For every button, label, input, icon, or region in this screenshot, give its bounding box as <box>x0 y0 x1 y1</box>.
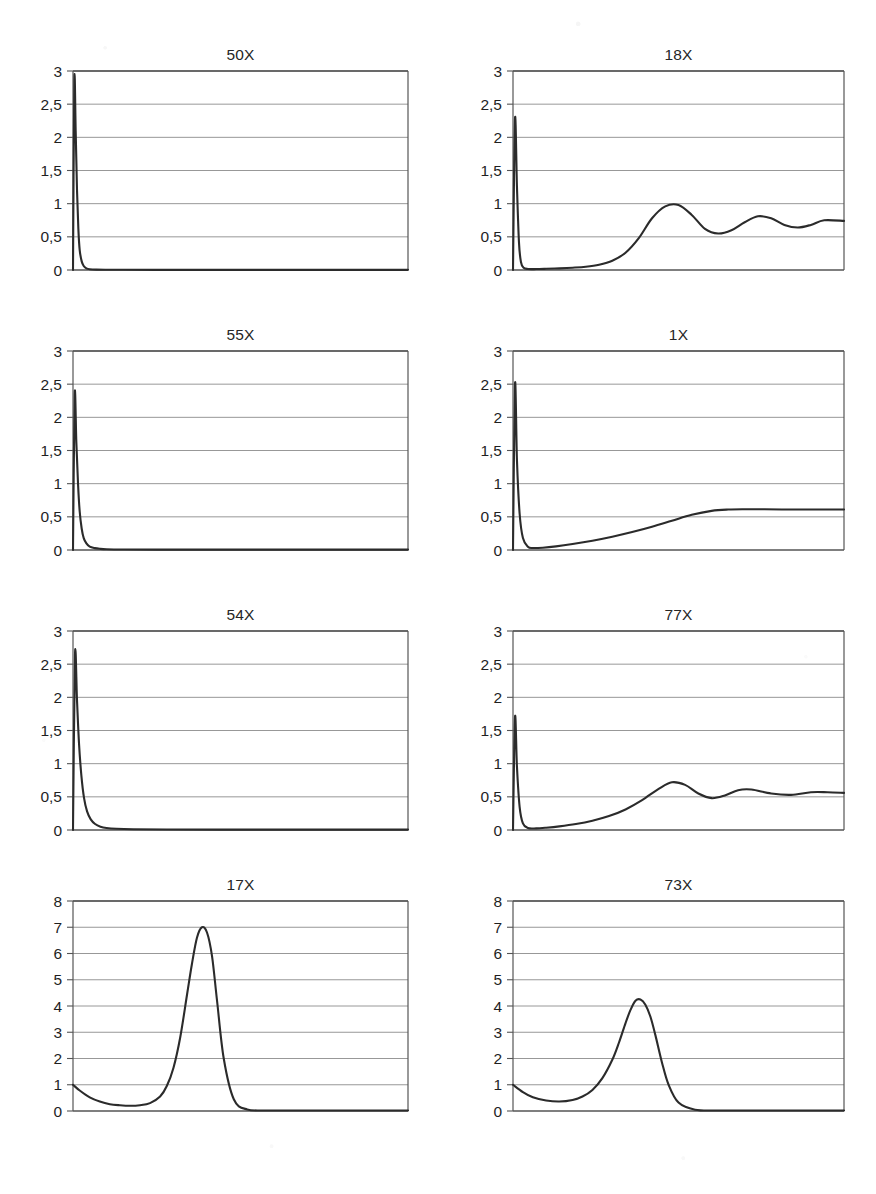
chart-title: 1X <box>513 326 844 344</box>
y-axis-tick-label: 2 <box>53 1050 62 1067</box>
y-axis-tick-label: 7 <box>53 919 62 936</box>
y-axis-tick-label: 3 <box>53 1024 62 1041</box>
y-axis-tick-label: 0,5 <box>480 788 502 805</box>
y-axis-tick-label: 0 <box>53 822 62 839</box>
plot-area: 00,511,522,53 <box>440 67 876 280</box>
y-axis-tick-label: 0 <box>493 542 502 559</box>
data-series-line <box>73 74 408 270</box>
y-axis-tick-label: 6 <box>53 945 62 962</box>
plot-area: 00,511,522,53 <box>0 67 440 280</box>
y-axis-tick-label: 3 <box>493 63 502 80</box>
y-axis-tick-label: 4 <box>493 998 502 1015</box>
y-axis-tick-label: 5 <box>493 971 502 988</box>
plot-area: 012345678 <box>0 897 440 1121</box>
y-axis-tick-label: 0,5 <box>40 788 62 805</box>
y-axis-tick-label: 1,5 <box>480 722 502 739</box>
chart-panel-50x: 50X00,511,522,53 <box>0 46 440 322</box>
y-axis-tick-label: 0 <box>53 1103 62 1120</box>
chart-title: 55X <box>73 326 408 344</box>
data-series-line <box>513 382 844 550</box>
y-axis-tick-label: 8 <box>53 893 62 910</box>
plot-area: 012345678 <box>440 897 876 1121</box>
y-axis-tick-label: 1 <box>493 195 502 212</box>
chart-title: 73X <box>513 876 844 894</box>
y-axis-tick-label: 1 <box>53 1076 62 1093</box>
y-axis-tick-label: 2,5 <box>40 376 62 393</box>
y-axis-tick-label: 1 <box>53 755 62 772</box>
y-axis-tick-label: 7 <box>493 919 502 936</box>
chart-title: 50X <box>73 46 408 64</box>
data-series-line <box>73 390 408 550</box>
y-axis-tick-label: 3 <box>493 1024 502 1041</box>
chart-title: 54X <box>73 606 408 624</box>
y-axis-tick-label: 3 <box>53 623 62 640</box>
y-axis-tick-label: 4 <box>53 998 62 1015</box>
chart-panel-18x: 18X00,511,522,53 <box>440 46 876 322</box>
y-axis-tick-label: 8 <box>493 893 502 910</box>
data-series-line <box>513 716 844 830</box>
chart-title: 18X <box>513 46 844 64</box>
data-series-line <box>73 649 408 830</box>
y-axis-tick-label: 1,5 <box>40 442 62 459</box>
y-axis-tick-label: 0 <box>493 822 502 839</box>
y-axis-tick-label: 0 <box>493 1103 502 1120</box>
y-axis-tick-label: 1,5 <box>480 162 502 179</box>
y-axis-tick-label: 2,5 <box>480 96 502 113</box>
y-axis-tick-label: 0,5 <box>480 508 502 525</box>
y-axis-tick-label: 2 <box>493 689 502 706</box>
y-axis-tick-label: 2 <box>53 689 62 706</box>
y-axis-tick-label: 2 <box>493 129 502 146</box>
y-axis-tick-label: 6 <box>493 945 502 962</box>
y-axis-tick-label: 1,5 <box>40 722 62 739</box>
plot-area: 00,511,522,53 <box>0 627 440 840</box>
y-axis-tick-label: 2 <box>53 129 62 146</box>
y-axis-tick-label: 1 <box>493 755 502 772</box>
y-axis-tick-label: 2 <box>53 409 62 426</box>
y-axis-tick-label: 2,5 <box>480 376 502 393</box>
plot-area: 00,511,522,53 <box>440 347 876 560</box>
data-series-line <box>73 927 408 1111</box>
plot-area: 00,511,522,53 <box>440 627 876 840</box>
plot-area: 00,511,522,53 <box>0 347 440 560</box>
y-axis-tick-label: 0,5 <box>40 508 62 525</box>
y-axis-tick-label: 3 <box>493 343 502 360</box>
y-axis-tick-label: 2,5 <box>480 656 502 673</box>
y-axis-tick-label: 1 <box>493 475 502 492</box>
y-axis-tick-label: 1 <box>53 475 62 492</box>
y-axis-tick-label: 2 <box>493 409 502 426</box>
chart-panel-73x: 73X012345678 <box>440 876 876 1163</box>
y-axis-tick-label: 3 <box>53 343 62 360</box>
y-axis-tick-label: 0,5 <box>40 228 62 245</box>
y-axis-tick-label: 0,5 <box>480 228 502 245</box>
chart-panel-55x: 55X00,511,522,53 <box>0 326 440 602</box>
data-series-line <box>513 117 844 270</box>
y-axis-tick-label: 2,5 <box>40 656 62 673</box>
y-axis-tick-label: 3 <box>53 63 62 80</box>
y-axis-tick-label: 2 <box>493 1050 502 1067</box>
chart-panel-17x: 17X012345678 <box>0 876 440 1163</box>
chart-panel-1x: 1X00,511,522,53 <box>440 326 876 602</box>
y-axis-tick-label: 1,5 <box>40 162 62 179</box>
y-axis-tick-label: 1 <box>493 1076 502 1093</box>
chart-grid-container: 50X00,511,522,5318X00,511,522,5355X00,51… <box>0 0 876 1194</box>
y-axis-tick-label: 3 <box>493 623 502 640</box>
y-axis-tick-label: 1,5 <box>480 442 502 459</box>
data-series-line <box>513 999 844 1110</box>
chart-title: 17X <box>73 876 408 894</box>
y-axis-tick-label: 0 <box>493 262 502 279</box>
y-axis-tick-label: 1 <box>53 195 62 212</box>
chart-panel-54x: 54X00,511,522,53 <box>0 606 440 882</box>
chart-panel-77x: 77X00,511,522,53 <box>440 606 876 882</box>
chart-title: 77X <box>513 606 844 624</box>
y-axis-tick-label: 0 <box>53 262 62 279</box>
y-axis-tick-label: 2,5 <box>40 96 62 113</box>
y-axis-tick-label: 0 <box>53 542 62 559</box>
y-axis-tick-label: 5 <box>53 971 62 988</box>
